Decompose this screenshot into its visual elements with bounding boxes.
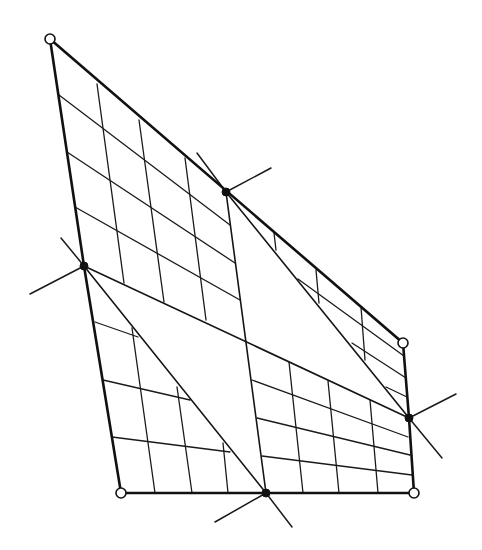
grid-line-lower-left-block (177, 387, 192, 493)
solid-node-icon (222, 188, 230, 196)
open-node-icon (116, 488, 126, 498)
grid-line-lower-right-block (257, 418, 410, 455)
mesh-canvas (0, 0, 482, 550)
node-spike (226, 168, 271, 192)
boundary-outline (50, 39, 414, 493)
open-node-icon (45, 34, 55, 44)
partition-lines (84, 192, 409, 493)
open-node-icon (398, 338, 408, 348)
node-spike (266, 493, 292, 527)
node-spike (215, 493, 266, 522)
grid-line-upper-right-block (274, 233, 276, 250)
grid-line-upper-right-block (361, 307, 365, 360)
grid-line-upper-left-block (67, 152, 235, 263)
grid-line-lower-left-block (223, 443, 228, 493)
node-spike (409, 394, 456, 418)
grid-line-lower-left-block (132, 328, 155, 493)
solid-node-icon (80, 262, 88, 270)
nodes (45, 34, 419, 498)
partition-line (84, 266, 409, 418)
solid-node-icon (405, 414, 413, 422)
node-spike (409, 418, 442, 458)
partition-line (226, 192, 409, 418)
node-spike (30, 266, 84, 294)
grid-line-upper-right-block (316, 270, 319, 303)
grid-line-upper-left-block (139, 120, 164, 302)
grid-line-upper-right-block (386, 387, 407, 397)
grid-line-lower-left-block (112, 437, 230, 452)
partition-line (84, 266, 266, 493)
mesh-diagram (0, 0, 482, 550)
grid-line-upper-right-block (298, 279, 404, 356)
open-node-icon (409, 488, 419, 498)
grid-line-upper-left-block (59, 95, 230, 225)
grid-line-upper-left-block (97, 84, 124, 283)
grid-line-upper-left-block (185, 158, 206, 320)
grid-line-upper-right-block (352, 343, 406, 378)
solid-node-icon (262, 489, 270, 497)
boundary-polygon (50, 39, 414, 493)
